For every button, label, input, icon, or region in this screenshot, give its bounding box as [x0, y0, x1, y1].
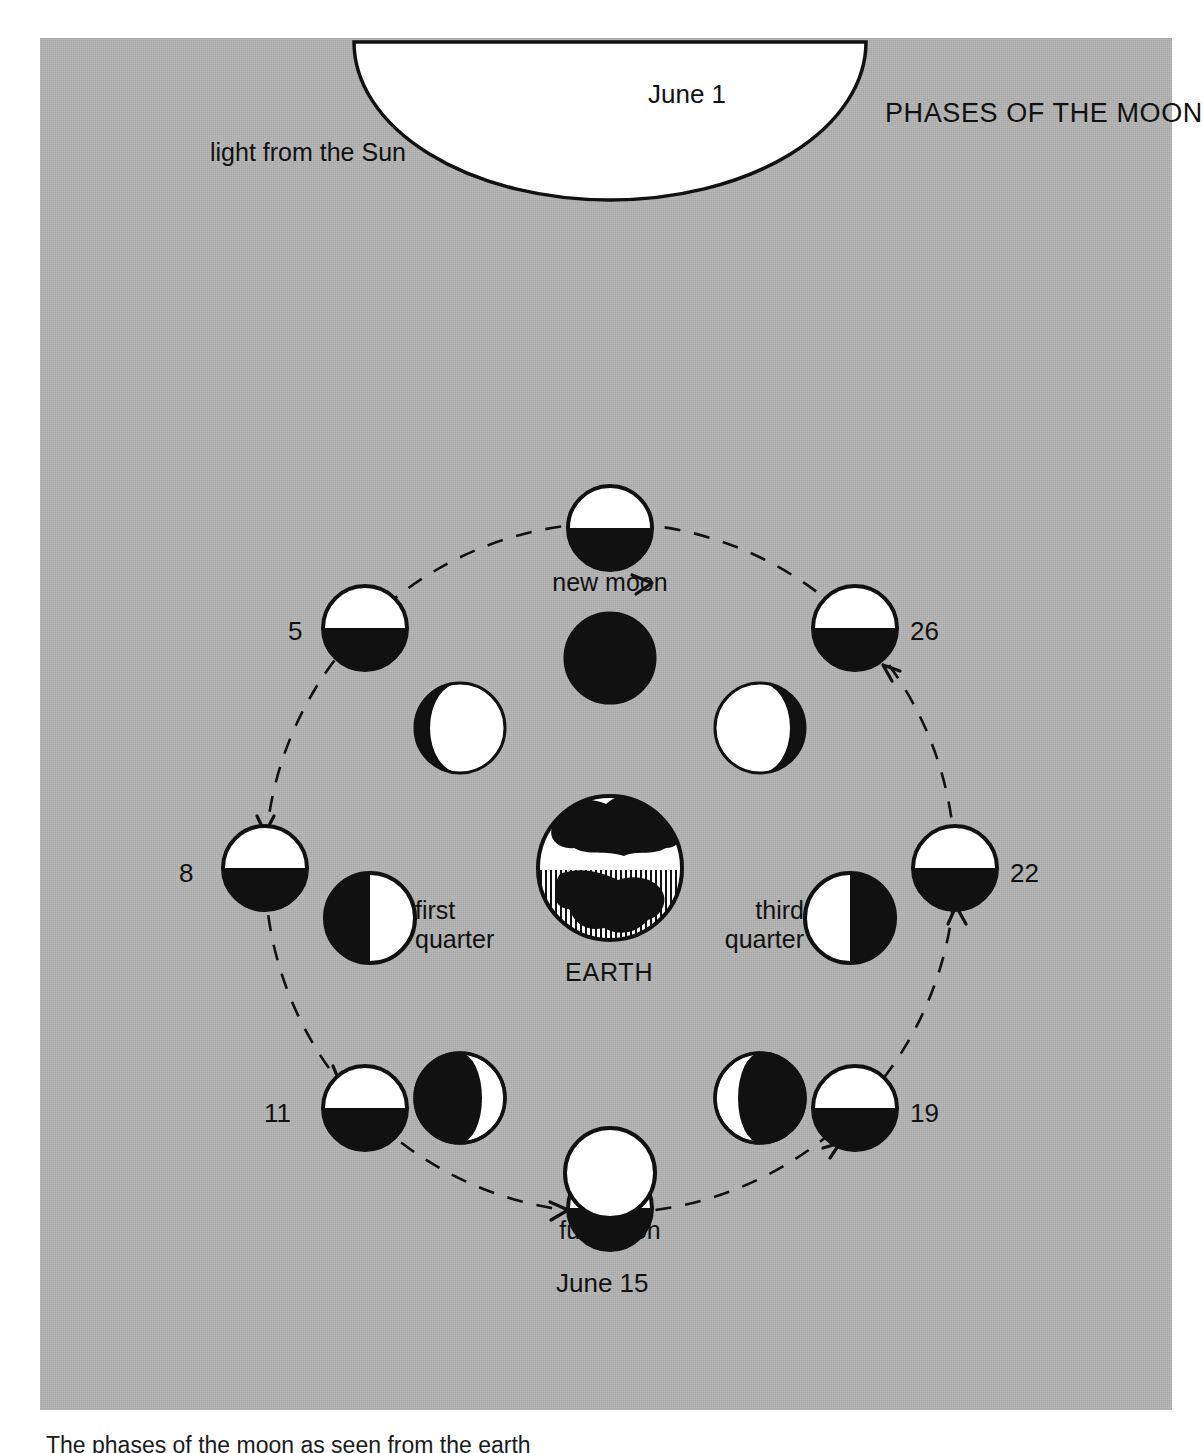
diagram-title: PHASES OF THE MOON [885, 98, 1203, 129]
earth-landmass-north [551, 794, 681, 857]
appearance-moon-waxing-gibbous [415, 1053, 505, 1143]
first-quarter-line-1: first [415, 896, 455, 924]
appearance-moon-waning-crescent [715, 683, 805, 773]
orbit-moon-day-11 [323, 1066, 407, 1150]
appearance-moon-full [565, 1128, 655, 1218]
orbit-date-june-15: June 15 [556, 1268, 649, 1299]
orbit-moon-day-19 [813, 1066, 897, 1150]
orbit-moon-june-1 [568, 486, 652, 570]
earth-globe [538, 794, 682, 943]
figure-panel: PHASES OF THE MOON light from the Sun Ju… [40, 38, 1172, 1410]
phase-caption-full-moon: full moon [510, 1216, 710, 1245]
orbit-moon-day-8 [223, 826, 307, 910]
sun-caption-label: light from the Sun [210, 138, 406, 167]
orbit-date-day-19: 19 [910, 1098, 939, 1129]
orbit-moon-day-22 [913, 826, 997, 910]
orbit-date-day-8: 8 [179, 858, 193, 889]
orbit-moon-day-26 [813, 586, 897, 670]
orbit-date-day-5: 5 [288, 616, 302, 647]
appearance-moon-first-quarter [325, 873, 415, 963]
earth-label: EARTH [565, 958, 653, 987]
first-quarter-line-2: quarter [415, 925, 494, 953]
phase-caption-first-quarter: first quarter [415, 896, 545, 953]
third-quarter-line-1: third [755, 896, 804, 924]
orbit-moon-day-5 [323, 586, 407, 670]
phase-caption-third-quarter: third quarter [674, 896, 804, 953]
sun-light-source [354, 42, 866, 200]
orbit-date-day-22: 22 [1010, 858, 1039, 889]
bottom-caption-text: The phases of the moon as seen from the … [46, 1432, 1046, 1453]
appearance-moon-waning-gibbous [715, 1053, 805, 1143]
sun-semicircle [354, 42, 866, 200]
bottom-caption: The phases of the moon as seen from the … [46, 1432, 1046, 1453]
orbit-date-day-26: 26 [910, 616, 939, 647]
orbit-date-june-1: June 1 [648, 79, 726, 110]
phase-caption-new-moon: new moon [510, 568, 710, 597]
appearance-moon-waxing-crescent [415, 683, 505, 773]
orbit-date-day-11: 11 [264, 1098, 291, 1129]
third-quarter-line-2: quarter [725, 925, 804, 953]
moon-phase-diagram [40, 38, 1172, 1410]
appearance-moon-new [565, 613, 655, 703]
appearance-moon-third-quarter [805, 873, 895, 963]
